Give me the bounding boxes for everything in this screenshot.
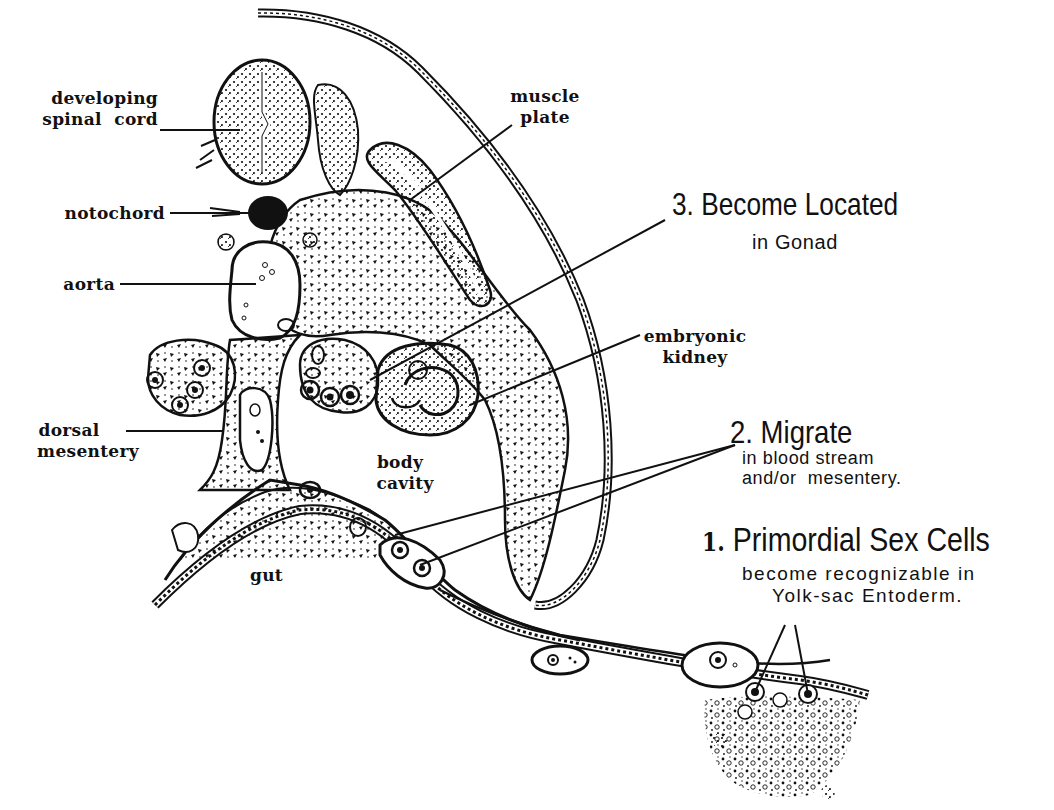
- label-line: kidney: [640, 347, 750, 368]
- label-line: developing: [38, 88, 158, 109]
- label-embryonic-kidney: embryonic kidney: [640, 326, 750, 368]
- leader-migrate-2: [420, 445, 735, 565]
- step-title: Primordial Sex Cells: [733, 520, 990, 558]
- step-title: Migrate: [761, 414, 853, 450]
- gonad-structure: [300, 339, 378, 413]
- label-line: plate: [500, 107, 590, 128]
- label-line: embryonic: [640, 326, 750, 347]
- step-subtitle-2: Yolk-sac Entoderm.: [772, 586, 963, 606]
- embryonic-kidney-structure: [376, 343, 478, 435]
- step-subtitle: in blood stream: [742, 448, 874, 468]
- spinal-cord-structure: [196, 60, 310, 184]
- label-body-cavity: body cavity: [365, 452, 445, 494]
- step-subtitle-2: and/or mesentery.: [742, 468, 902, 488]
- yolk-sac-entoderm: [704, 683, 860, 799]
- aorta-structure: [230, 242, 300, 340]
- label-line: dorsal: [28, 420, 148, 441]
- neural-crest: [314, 84, 358, 195]
- label-muscle-plate: muscle plate: [500, 86, 590, 128]
- label-line: mesentery: [28, 441, 148, 462]
- step-number: 1.: [702, 527, 725, 557]
- label-gut: gut: [250, 565, 283, 586]
- label-notochord: notochord: [40, 203, 165, 224]
- label-dorsal-mesentery: dorsal mesentery: [28, 420, 148, 462]
- step-number: 2.: [730, 414, 753, 450]
- label-line: body: [365, 452, 445, 473]
- label-line: spinal cord: [38, 109, 158, 130]
- step-title: Become Located: [701, 186, 898, 222]
- label-aorta: aorta: [40, 274, 115, 295]
- left-gonadal-ridge: [147, 340, 235, 416]
- step-subtitle: become recognizable in: [742, 564, 976, 584]
- label-developing-spinal-cord: developing spinal cord: [38, 88, 158, 130]
- label-line: cavity: [365, 473, 445, 494]
- step-number: 3.: [672, 186, 694, 222]
- step-subtitle: in Gonad: [752, 232, 838, 252]
- label-line: muscle: [500, 86, 590, 107]
